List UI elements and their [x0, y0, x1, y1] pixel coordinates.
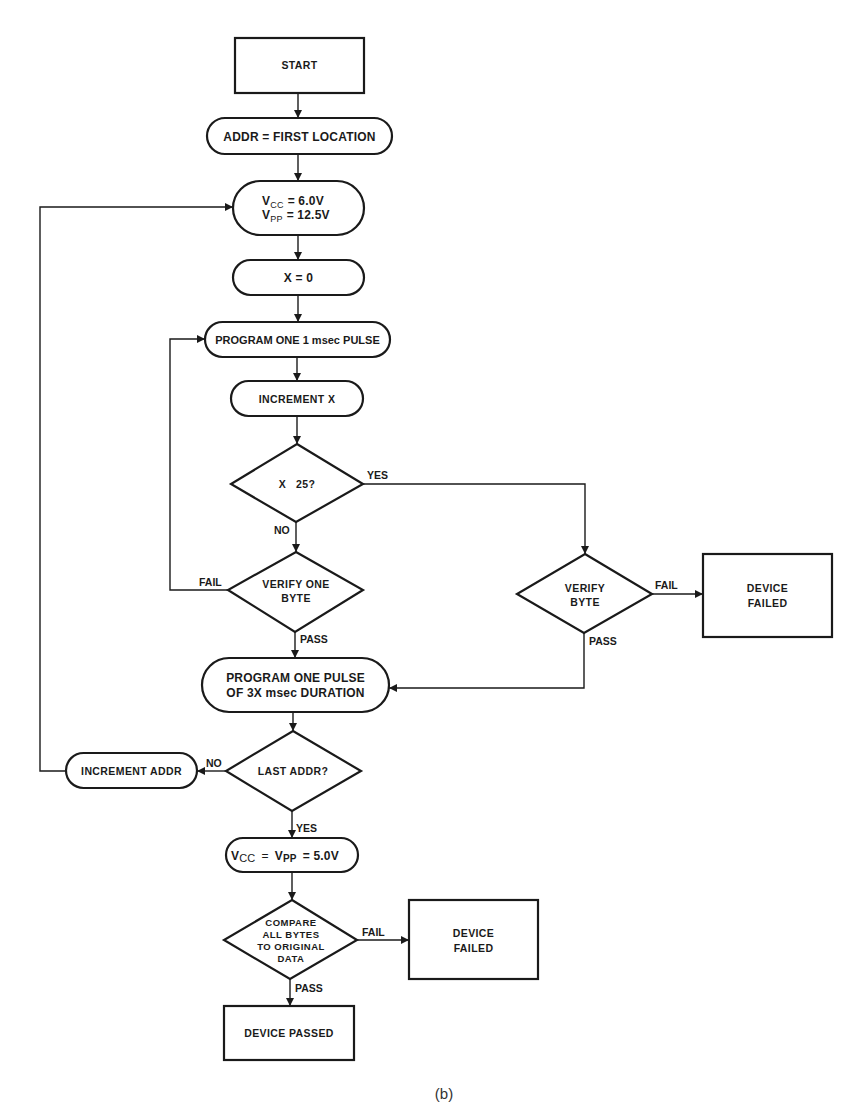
- edge-verifybyte-pass: [389, 633, 584, 688]
- arrow-icon: [225, 203, 233, 211]
- node-start-label: START: [281, 59, 317, 71]
- label-last-addr-no: NO: [206, 757, 222, 769]
- label-last-addr-yes: YES: [296, 822, 317, 834]
- figure-caption: (b): [435, 1085, 453, 1102]
- node-program-1ms-label: PROGRAM ONE 1 msec PULSE: [215, 334, 379, 346]
- node-compare-diamond: COMPARE ALL BYTES TO ORIGINAL DATA: [224, 900, 357, 979]
- node-program-3x-line1: PROGRAM ONE PULSE: [226, 671, 365, 685]
- arrow-icon: [695, 590, 703, 598]
- label-verify-byte-pass: PASS: [589, 635, 617, 647]
- node-device-failed-1: DEVICE FAILED: [703, 554, 832, 637]
- node-device-passed-label: DEVICE PASSED: [244, 1027, 334, 1039]
- label-x-check-yes: YES: [367, 469, 388, 481]
- node-x-check-label: X 25?: [279, 478, 316, 490]
- arrow-icon: [401, 936, 409, 944]
- node-increment-addr-label: INCREMENT ADDR: [81, 765, 182, 777]
- node-addr-first-location: ADDR = FIRST LOCATION: [207, 118, 392, 154]
- arrow-icon: [294, 173, 302, 181]
- node-verify-one-line2: BYTE: [281, 592, 311, 604]
- node-start: START: [235, 38, 364, 93]
- edge-xcheck-verifybyte: [363, 484, 585, 554]
- label-compare-fail: FAIL: [362, 926, 385, 938]
- node-x-check-diamond: X 25?: [231, 444, 363, 522]
- node-device-failed-1-line2: FAILED: [748, 597, 788, 609]
- node-device-failed-2-line1: DEVICE: [453, 927, 495, 939]
- node-final-voltage: VCC=VPP= 5.0V: [226, 838, 358, 872]
- node-verify-byte-diamond: VERIFY BYTE: [517, 554, 652, 633]
- arrow-icon: [197, 335, 205, 343]
- node-addr-label: ADDR = FIRST LOCATION: [223, 130, 375, 144]
- arrow-icon: [389, 684, 397, 692]
- label-verify-byte-fail: FAIL: [655, 579, 678, 591]
- node-set-voltage: VCC= 6.0V VPP= 12.5V: [233, 181, 364, 235]
- connectors: [40, 93, 703, 1006]
- label-x-check-no: NO: [274, 524, 290, 536]
- node-verify-one-line1: VERIFY ONE: [262, 578, 329, 590]
- node-x-zero: X = 0: [233, 260, 364, 295]
- node-verify-one-byte-diamond: VERIFY ONE BYTE: [228, 552, 363, 632]
- node-device-failed-2-line2: FAILED: [454, 942, 494, 954]
- edge-verifyone-fail-loop: [170, 339, 228, 590]
- flowchart-canvas: START ADDR = FIRST LOCATION VCC= 6.0V VP…: [0, 0, 864, 1120]
- node-compare-line4: DATA: [278, 953, 305, 964]
- node-program-1ms-pulse: PROGRAM ONE 1 msec PULSE: [205, 322, 390, 357]
- node-compare-line3: TO ORIGINAL: [257, 941, 325, 952]
- arrow-icon: [294, 252, 302, 260]
- node-increment-addr: INCREMENT ADDR: [66, 753, 197, 788]
- arrow-icon: [294, 314, 302, 322]
- arrow-icon: [293, 373, 301, 381]
- node-device-failed-1-line1: DEVICE: [747, 582, 789, 594]
- node-verify-byte-line1: VERIFY: [565, 582, 605, 594]
- label-verify-one-fail: FAIL: [199, 576, 222, 588]
- node-verify-byte-line2: BYTE: [570, 596, 600, 608]
- node-x-zero-label: X = 0: [284, 271, 313, 285]
- node-increment-x-label: INCREMENT X: [259, 393, 336, 405]
- node-program-3x-pulse: PROGRAM ONE PULSE OF 3X msec DURATION: [202, 658, 389, 712]
- arrow-icon: [286, 998, 294, 1006]
- arrow-icon: [291, 650, 299, 658]
- node-device-failed-2: DEVICE FAILED: [409, 900, 538, 979]
- arrow-icon: [197, 767, 205, 775]
- node-program-3x-line2: OF 3X msec DURATION: [226, 686, 364, 700]
- arrow-icon: [294, 110, 302, 118]
- label-verify-one-pass: PASS: [300, 633, 328, 645]
- node-last-addr-diamond: LAST ADDR?: [226, 731, 361, 811]
- label-compare-pass: PASS: [295, 982, 323, 994]
- arrow-icon: [288, 830, 296, 838]
- node-device-passed: DEVICE PASSED: [224, 1006, 354, 1060]
- node-increment-x: INCREMENT X: [231, 381, 363, 416]
- node-last-addr-label: LAST ADDR?: [258, 765, 329, 777]
- node-compare-line1: COMPARE: [265, 917, 316, 928]
- node-compare-line2: ALL BYTES: [262, 929, 319, 940]
